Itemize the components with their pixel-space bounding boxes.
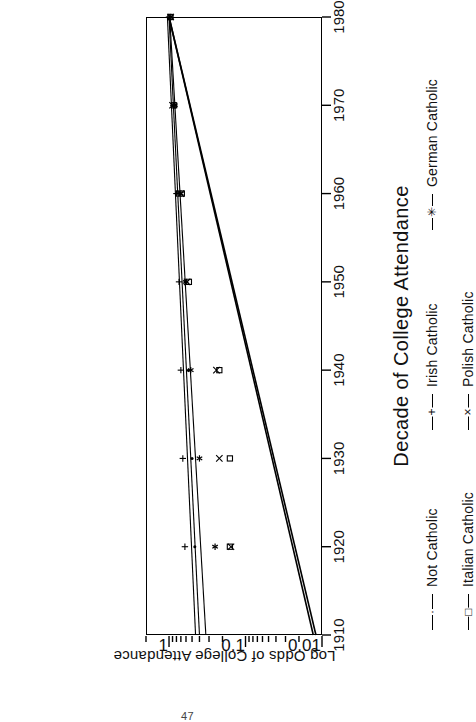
series-2-markers [168,14,218,550]
fit-line-0 [169,17,199,635]
x-tick-label-1950: 1950 [330,257,347,307]
x-axis-title: Decade of College Attendance [390,17,413,635]
legend-label: Polish Catholic [460,291,476,387]
y-tick-label-0-1: 0.1 [199,636,245,656]
legend-marker-icon: ✳ [425,194,439,230]
legend-entry-irish-catholic[interactable]: +Irish Catholic [424,230,440,430]
fit-lines [167,17,316,635]
legend-label: Not Catholic [424,508,440,587]
page-number: 47 [181,710,194,722]
x-tick-label-1920: 1920 [330,522,347,572]
legend-marker-icon: + [425,394,439,430]
x-tick-label-1940: 1940 [330,345,347,395]
data-markers [166,14,234,550]
x-tick-label-1910: 1910 [330,610,347,660]
legend-label: Italian Catholic [460,492,476,587]
chart-legend: ·Not Catholic+Irish Catholic✳German Cath… [424,30,476,630]
fit-line-2 [170,17,206,635]
fit-line-4 [169,17,313,635]
x-tick-label-1980: 1980 [330,0,347,42]
legend-entry-italian-catholic[interactable]: □Italian Catholic [460,430,476,630]
plot-canvas [146,17,322,635]
legend-label: German Catholic [424,79,440,187]
x-tick-label-1970: 1970 [330,80,347,130]
x-tick-label-1960: 1960 [330,169,347,219]
legend-label: Irish Catholic [424,303,440,387]
x-tick-label-1930: 1930 [330,433,347,483]
legend-marker-icon: · [425,594,439,630]
y-tick-label-1: 1 [122,636,168,656]
y-tick-label-0-01: 0.01 [275,636,321,656]
legend-marker-icon: × [461,394,475,430]
legend-entry-polish-catholic[interactable]: ×Polish Catholic [460,230,476,430]
legend-entry-german-catholic[interactable]: ✳German Catholic [424,30,440,230]
legend-marker-icon: □ [461,594,475,630]
legend-entry-not-catholic[interactable]: ·Not Catholic [424,430,440,630]
